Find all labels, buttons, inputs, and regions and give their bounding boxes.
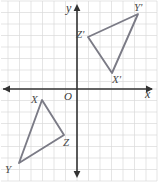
vertex-label-x: X xyxy=(31,94,38,105)
vertex-label-z-prime: Z' xyxy=(76,29,84,40)
vertex-label-y-prime: Y' xyxy=(134,2,142,13)
origin-label: O xyxy=(64,91,72,102)
coordinate-plane-figure: x y O X Y Z X' Y' Z' xyxy=(0,0,158,182)
vertex-label-z: Z xyxy=(63,137,69,148)
y-axis-label: y xyxy=(66,2,71,14)
vertex-label-x-prime: X' xyxy=(112,74,121,85)
x-axis-label: x xyxy=(145,88,150,100)
vertex-label-y: Y xyxy=(5,164,11,175)
